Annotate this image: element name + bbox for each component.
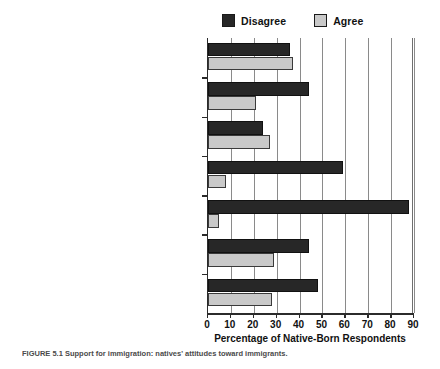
x-axis-tick-label: 80 bbox=[385, 319, 396, 330]
gridline bbox=[231, 38, 232, 313]
x-axis-tick bbox=[276, 313, 277, 318]
legend-label-disagree: Disagree bbox=[241, 15, 286, 27]
legend-label-agree: Agree bbox=[333, 15, 363, 27]
x-axis-tick bbox=[299, 313, 300, 318]
legend-item-disagree: Disagree bbox=[222, 14, 286, 27]
y-axis-tick bbox=[202, 234, 207, 235]
y-axis-tick bbox=[202, 117, 207, 118]
chart-legend: Disagree Agree bbox=[222, 14, 363, 27]
x-axis-tick bbox=[207, 313, 208, 318]
x-axis-tick bbox=[390, 313, 391, 318]
bar-disagree-6 bbox=[208, 279, 318, 293]
gridline bbox=[414, 38, 415, 313]
bar-agree-2 bbox=[208, 135, 270, 149]
y-axis-tick bbox=[202, 274, 207, 275]
x-axis-tick bbox=[413, 313, 414, 318]
x-axis-tick-label: 20 bbox=[247, 319, 258, 330]
gridline bbox=[391, 38, 392, 313]
x-axis-line bbox=[207, 313, 413, 315]
x-axis-tick-label: 90 bbox=[407, 319, 418, 330]
bar-disagree-5 bbox=[208, 239, 309, 253]
bar-disagree-0 bbox=[208, 43, 290, 57]
bar-disagree-1 bbox=[208, 82, 309, 96]
bar-agree-3 bbox=[208, 175, 226, 189]
bar-agree-4 bbox=[208, 214, 219, 228]
square-swatch-icon bbox=[314, 14, 327, 27]
x-axis-tick bbox=[230, 313, 231, 318]
bar-agree-0 bbox=[208, 57, 293, 71]
y-axis-tick bbox=[202, 195, 207, 196]
bar-agree-1 bbox=[208, 96, 256, 110]
bar-agree-5 bbox=[208, 253, 274, 267]
gridline bbox=[368, 38, 369, 313]
x-axis-tick-label: 30 bbox=[270, 319, 281, 330]
gridline bbox=[254, 38, 255, 313]
gridline bbox=[277, 38, 278, 313]
gridline bbox=[300, 38, 301, 313]
square-swatch-icon bbox=[222, 14, 235, 27]
y-axis-tick bbox=[202, 156, 207, 157]
x-axis-label: Percentage of Native-Born Respondents bbox=[207, 333, 413, 344]
x-axis-tick bbox=[253, 313, 254, 318]
x-axis-tick bbox=[367, 313, 368, 318]
legend-item-agree: Agree bbox=[314, 14, 363, 27]
bar-disagree-2 bbox=[208, 121, 263, 135]
figure-container: Disagree Agree 0102030405060708090 Perce… bbox=[0, 0, 440, 369]
x-axis-tick-label: 40 bbox=[293, 319, 304, 330]
x-axis-tick-label: 70 bbox=[362, 319, 373, 330]
x-axis-tick-label: 10 bbox=[224, 319, 235, 330]
x-axis-tick-label: 50 bbox=[316, 319, 327, 330]
x-axis-tick bbox=[344, 313, 345, 318]
x-axis-tick-label: 0 bbox=[204, 319, 210, 330]
plot-area bbox=[207, 38, 413, 313]
y-axis-tick bbox=[202, 77, 207, 78]
bar-agree-6 bbox=[208, 293, 272, 307]
x-axis-tick bbox=[321, 313, 322, 318]
gridline bbox=[345, 38, 346, 313]
bar-disagree-3 bbox=[208, 161, 343, 175]
x-axis-tick-label: 60 bbox=[339, 319, 350, 330]
gridline bbox=[322, 38, 323, 313]
figure-caption: FIGURE 5.1 Support for immigration: nati… bbox=[22, 349, 422, 358]
bar-disagree-4 bbox=[208, 200, 409, 214]
